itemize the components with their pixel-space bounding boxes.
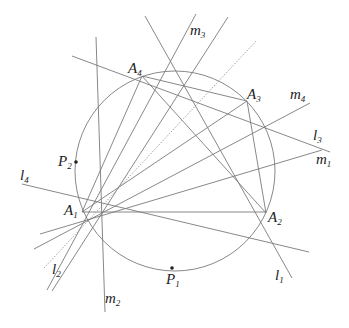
geometry-figure: l1l2l3l4m1m2m3m4A1A2A3A4P1P2 [0,0,349,328]
label-l2: l2 [52,261,61,279]
label-l3: l3 [313,127,322,145]
point-P2 [74,160,78,164]
label-P1: P1 [165,271,180,289]
label-A3: A3 [246,86,261,104]
line-l3 [72,56,330,152]
label-m2: m2 [105,290,121,308]
chord-line [247,101,266,213]
line-l1 [145,16,292,278]
label-m3: m3 [190,22,206,40]
circumcircle [75,71,275,271]
label-A2: A2 [267,209,282,227]
point-P1 [170,266,174,270]
label-m4: m4 [290,86,306,104]
label-l4: l4 [20,167,29,185]
label-m1: m1 [316,151,331,169]
line-l2 [47,14,196,290]
diagram-canvas: l1l2l3l4m1m2m3m4A1A2A3A4P1P2 [0,0,349,328]
line-m2 [96,37,105,312]
label-A1: A1 [63,202,78,220]
label-l1: l1 [275,267,284,285]
label-A4: A4 [127,60,142,78]
label-P2: P2 [57,153,72,171]
line-l4 [22,184,309,252]
